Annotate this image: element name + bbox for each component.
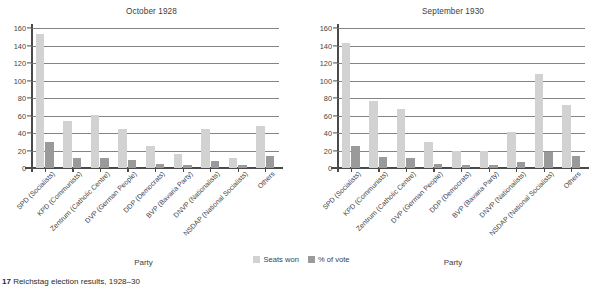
chart-panel-september-1930: September 1930 020406080100120140160 SPD…	[303, 0, 603, 283]
y-tick-label: 20	[18, 146, 26, 155]
x-tick-label: DNVP (Nationalists)	[172, 170, 221, 219]
bar-group	[337, 28, 365, 168]
bar-groups-left	[31, 28, 279, 168]
bar-group	[447, 28, 475, 168]
bar-seats-won	[201, 129, 210, 168]
x-tick-mark	[100, 168, 101, 172]
bar-seats-won	[256, 126, 265, 168]
bar-percent-of-vote	[128, 160, 137, 168]
bar-seats-won	[118, 129, 127, 168]
y-tick-label: 120	[14, 59, 26, 68]
bar-percent-of-vote	[379, 157, 388, 168]
bar-percent-of-vote	[45, 142, 54, 168]
bar-percent-of-vote	[434, 164, 443, 168]
x-tick-mark	[127, 168, 128, 172]
y-tick-label: 60	[18, 111, 26, 120]
bar-group	[252, 28, 280, 168]
x-tick-mark	[433, 168, 434, 172]
chart-title-right: September 1930	[303, 7, 603, 16]
bar-group	[365, 28, 393, 168]
bar-group	[502, 28, 530, 168]
bar-seats-won	[36, 34, 45, 168]
bar-percent-of-vote	[238, 165, 247, 168]
bar-group	[420, 28, 448, 168]
y-tick-label: 140	[14, 41, 26, 50]
bar-percent-of-vote	[266, 156, 275, 168]
legend-item-percent-of-vote: % of vote	[308, 255, 350, 264]
bar-group	[224, 28, 252, 168]
bar-seats-won	[146, 146, 155, 168]
x-tick-label: DVP (German People)	[84, 170, 138, 224]
bar-seats-won	[229, 158, 238, 169]
bar-percent-of-vote	[462, 165, 471, 169]
bar-group	[31, 28, 59, 168]
x-tick-mark	[544, 168, 545, 172]
plot-area-right: 020406080100120140160	[337, 28, 585, 168]
bar-percent-of-vote	[73, 158, 82, 168]
y-tick-label: 80	[18, 94, 26, 103]
legend-item-seats-won: Seats won	[253, 255, 298, 264]
bar-seats-won	[480, 151, 489, 168]
bar-percent-of-vote	[489, 165, 498, 168]
legend-swatch-votes-icon	[308, 256, 315, 263]
bar-group	[475, 28, 503, 168]
bar-group	[196, 28, 224, 168]
y-tick-label: 160	[14, 24, 26, 33]
y-tick-label: 120	[320, 59, 332, 68]
x-tick-mark	[516, 168, 517, 172]
bar-group	[141, 28, 169, 168]
x-tick-mark	[45, 168, 46, 172]
x-tick-mark	[183, 168, 184, 172]
figure-caption-number: 17	[2, 277, 11, 286]
y-tick-label: 80	[324, 94, 332, 103]
x-tick-mark	[378, 168, 379, 172]
x-tick-mark	[351, 168, 352, 172]
bar-seats-won	[562, 105, 571, 168]
bar-seats-won	[342, 43, 351, 168]
x-tick-mark	[210, 168, 211, 172]
bar-percent-of-vote	[351, 146, 360, 168]
bar-seats-won	[63, 121, 72, 168]
x-tick-mark	[72, 168, 73, 172]
y-tick-label: 20	[324, 146, 332, 155]
chart-title-left: October 1928	[0, 7, 303, 16]
y-tick-label: 100	[320, 76, 332, 85]
bar-group	[86, 28, 114, 168]
x-tick-mark	[155, 168, 156, 172]
x-tick-mark	[238, 168, 239, 172]
x-tick-mark	[406, 168, 407, 172]
x-tick-mark	[265, 168, 266, 172]
bar-seats-won	[91, 115, 100, 168]
bar-percent-of-vote	[572, 156, 581, 168]
y-tick-label: 40	[324, 129, 332, 138]
x-tick-mark	[461, 168, 462, 172]
legend-swatch-seats-icon	[253, 256, 260, 263]
bar-seats-won	[507, 132, 516, 168]
bar-percent-of-vote	[517, 162, 526, 168]
bar-group	[558, 28, 586, 168]
y-tick-label: 100	[14, 76, 26, 85]
bar-seats-won	[174, 154, 183, 168]
bar-percent-of-vote	[406, 158, 415, 169]
plot-area-left: 020406080100120140160	[31, 28, 279, 168]
x-tick-label: Others	[562, 170, 582, 190]
bar-group	[530, 28, 558, 168]
bar-percent-of-vote	[544, 152, 553, 168]
bar-seats-won	[452, 151, 461, 169]
bar-seats-won	[369, 101, 378, 168]
figure-caption: 17 Reichstag election results, 1928–30	[2, 277, 140, 286]
bar-groups-right	[337, 28, 585, 168]
chart-legend: Seats won % of vote	[0, 255, 603, 264]
bar-group	[114, 28, 142, 168]
x-tick-mark	[489, 168, 490, 172]
y-tick-label: 0	[22, 164, 26, 173]
bar-percent-of-vote	[156, 164, 165, 168]
y-tick-label: 0	[328, 164, 332, 173]
legend-label-percent-of-vote: % of vote	[318, 255, 350, 264]
bar-group	[59, 28, 87, 168]
bar-percent-of-vote	[211, 161, 220, 168]
bar-seats-won	[397, 109, 406, 169]
bar-seats-won	[424, 142, 433, 168]
y-tick-label: 140	[320, 41, 332, 50]
